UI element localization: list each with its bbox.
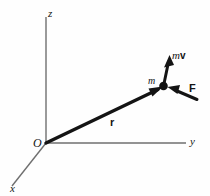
- force-vector-label: F: [189, 83, 196, 94]
- x-axis-label: x: [10, 183, 15, 194]
- y-axis-label: y: [190, 136, 195, 147]
- momentum-label-velocity-part: v: [180, 50, 186, 61]
- position-vector-group: [46, 87, 163, 144]
- axes-group: [12, 17, 186, 186]
- particle-mass-dot: [159, 82, 168, 91]
- vector-diagram-figure: z y x O r F m mv: [0, 0, 210, 196]
- z-axis-label: z: [48, 8, 52, 19]
- diagram-canvas: [0, 0, 210, 196]
- position-vector-label: r: [110, 117, 114, 128]
- momentum-label-mass-part: m: [172, 49, 180, 61]
- origin-label: O: [33, 137, 42, 149]
- momentum-vector-label: mv: [172, 50, 186, 61]
- particle-mass-label: m: [148, 76, 155, 86]
- position-vector-shaft: [46, 90, 158, 144]
